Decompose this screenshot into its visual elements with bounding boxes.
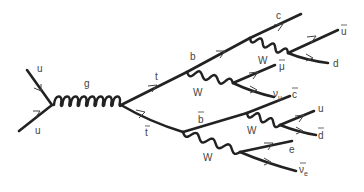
- label-w1: W: [193, 87, 203, 98]
- label-w3: W: [247, 125, 257, 136]
- label-u-in-bottom: u: [35, 125, 41, 136]
- label-u-out: u: [318, 103, 324, 114]
- label-bbar: b: [198, 114, 204, 125]
- label-e: e: [289, 144, 295, 155]
- label-w2: W: [258, 55, 268, 66]
- numu-line: [233, 83, 274, 97]
- antitop-line: [121, 105, 183, 132]
- u-in-top-line: [27, 70, 52, 105]
- label-cbar: c: [292, 89, 297, 100]
- label-t: t: [155, 71, 158, 82]
- label-mubar: μ: [279, 61, 285, 72]
- label-w4: W: [203, 152, 213, 163]
- label-d: d: [333, 58, 339, 69]
- label-u-in-top: u: [37, 63, 43, 74]
- w1-boson-line: [187, 71, 233, 83]
- label-b: b: [190, 51, 196, 62]
- w2-boson-line: [250, 38, 288, 53]
- label-c: c: [276, 10, 281, 21]
- label-dbar: d: [318, 130, 324, 141]
- cbar-line: [247, 96, 290, 113]
- w4-boson-line: [183, 132, 240, 154]
- b-line: [187, 38, 250, 72]
- bbar-line: [183, 113, 247, 132]
- u-out-line: [280, 111, 314, 125]
- mubar-line: [233, 65, 275, 83]
- label-ubar: u: [341, 26, 347, 37]
- label-nuebar: νe: [299, 164, 308, 177]
- label-tbar: t: [145, 127, 148, 138]
- d-line: [288, 53, 328, 63]
- nuebar-line: [240, 152, 296, 171]
- label-numu: νμ: [273, 88, 282, 102]
- feynman-diagram: u u g t t b W c W u d μ νμ b c W u d W e…: [0, 0, 364, 192]
- label-g: g: [84, 78, 90, 89]
- gluon-line: [54, 96, 121, 105]
- ubar-line: [288, 30, 338, 53]
